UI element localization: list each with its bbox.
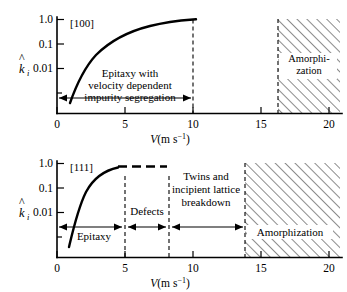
- x-axis-title-units-bottom: (m s: [157, 277, 178, 290]
- x-tick-label-top-10: 10: [187, 118, 199, 130]
- twins-label-bottom-line2: incipient lattice: [172, 183, 240, 195]
- x-axis-title-text-top: V(m s−1): [150, 132, 190, 146]
- chart-svg-bottom: 1.0 0.1 0.01 ^ k i 0 5 10 15 20 V(m s−1): [0, 146, 347, 292]
- defects-label-bottom: Defects: [130, 205, 164, 217]
- y-tick-label-top-0: 1.0: [39, 13, 54, 25]
- x-tick-label-bottom-15: 15: [255, 262, 267, 274]
- orientation-label-bottom: [111]: [70, 161, 93, 173]
- y-axis-title-symbol-bottom: k: [19, 206, 25, 220]
- x-tick-label-bottom-0: 0: [54, 262, 60, 274]
- y-tick-label-bottom-0: 1.0: [39, 157, 54, 169]
- twins-label-bottom-line3: breakdown: [182, 196, 231, 208]
- chart-panel-bottom: 1.0 0.1 0.01 ^ k i 0 5 10 15 20 V(m s−1): [0, 146, 347, 292]
- x-tick-label-top-0: 0: [54, 118, 60, 130]
- amorphization-label-top-line1: Amorphi-: [288, 53, 330, 64]
- amorphization-hatch-bottom: [245, 163, 340, 257]
- amorphization-label-top-line2: zation: [296, 65, 322, 76]
- epitaxy-label-top-line3: impurity segregation: [84, 91, 176, 103]
- y-axis-title-subscript-top: i: [27, 68, 30, 78]
- x-tick-label-top-20: 20: [323, 118, 335, 130]
- x-axis-title-sup-top: −1: [177, 132, 186, 141]
- x-tick-label-top-15: 15: [255, 118, 267, 130]
- epitaxy-label-top-line1: Epitaxy with: [102, 67, 159, 79]
- epitaxy-label-top-line2: velocity dependent: [88, 79, 171, 91]
- x-tick-label-bottom-20: 20: [323, 262, 335, 274]
- y-tick-label-bottom-2: 0.01: [33, 206, 53, 218]
- defects-span-arrow-bottom: [128, 224, 166, 231]
- y-axis-title-subscript-bottom: i: [27, 212, 30, 222]
- x-axis-title-top: V(m s−1): [150, 132, 190, 146]
- amorphization-label-bottom: Amorphization: [257, 226, 324, 238]
- y-axis-title-top: ^ k i: [19, 51, 30, 78]
- epitaxy-label-bottom: Epitaxy: [77, 230, 112, 242]
- x-tick-label-top-5: 5: [122, 118, 128, 130]
- y-tick-label-top-2: 0.01: [33, 62, 53, 74]
- y-axis-title-symbol-top: k: [19, 62, 25, 76]
- x-axis-title-bottom: V(m s−1): [150, 276, 190, 290]
- x-axis-title-close-bottom: ): [186, 277, 190, 290]
- x-axis-title-sup-bottom: −1: [177, 276, 186, 285]
- x-axis-title-units-top: (m s: [157, 133, 178, 146]
- twins-label-bottom-line1: Twins and: [183, 170, 229, 182]
- twins-span-arrow-bottom: [172, 224, 243, 231]
- y-axis-title-bottom: ^ k i: [19, 195, 30, 222]
- x-tick-label-bottom-5: 5: [122, 262, 128, 274]
- y-tick-label-bottom-1: 0.1: [39, 182, 54, 194]
- orientation-label-top: [100]: [70, 17, 94, 29]
- x-axis-title-close-top: ): [186, 133, 190, 146]
- x-axis-title-text-bottom: V(m s−1): [150, 276, 190, 290]
- chart-panel-top: 1.0 0.1 0.01 ^ k i 0 5 10 15 20 V(m s−1): [0, 0, 347, 146]
- figure-container: 1.0 0.1 0.01 ^ k i 0 5 10 15 20 V(m s−1): [0, 0, 347, 292]
- x-tick-label-bottom-10: 10: [187, 262, 199, 274]
- y-tick-label-top-1: 0.1: [39, 38, 54, 50]
- chart-svg-top: 1.0 0.1 0.01 ^ k i 0 5 10 15 20 V(m s−1): [0, 0, 347, 146]
